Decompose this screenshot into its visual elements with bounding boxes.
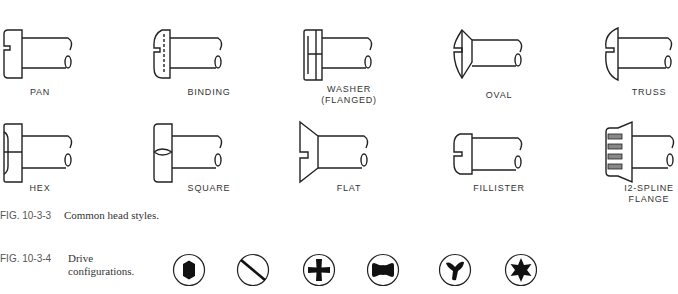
label-fillister: FILLISTER <box>439 183 559 194</box>
caption-drive-line1: Drive <box>68 252 134 265</box>
flat-head-screw <box>298 122 388 182</box>
slotted-drive-icon <box>236 253 270 287</box>
oval-head-screw <box>452 22 542 82</box>
figure-caption-text: Common head styles. <box>64 209 159 221</box>
truss-head-screw <box>604 22 678 82</box>
hex-socket-drive-icon <box>172 253 206 287</box>
12-spline-flange-head-screw <box>604 122 678 182</box>
label-washer-line2: (FLANGED) <box>289 95 409 106</box>
washer-flanged-head-screw <box>302 22 392 82</box>
pan-head-screw <box>2 22 92 82</box>
label-washer-line1: WASHER <box>289 84 409 95</box>
label-12-spline-line2: FLANGE <box>589 194 678 205</box>
caption-drive-line2: configurations. <box>68 265 134 278</box>
label-flat: FLAT <box>289 183 409 194</box>
label-hex: HEX <box>0 183 100 194</box>
tri-wing-drive-icon <box>438 253 472 287</box>
label-oval: OVAL <box>439 90 559 101</box>
figure-number: FIG. 10-3-3 <box>0 210 51 221</box>
label-binding: BINDING <box>149 87 269 98</box>
figure-caption-head-styles: FIG. 10-3-3 Common head styles. <box>0 209 159 221</box>
label-12-spline: I2-SPLINE FLANGE <box>589 183 678 205</box>
binding-head-screw <box>152 22 242 82</box>
phillips-drive-icon <box>302 253 336 287</box>
clutch-drive-icon <box>366 253 400 287</box>
label-truss: TRUSS <box>589 87 678 98</box>
fillister-head-screw <box>452 130 542 190</box>
figure-number-drive: FIG. 10-3-4 <box>0 253 51 264</box>
torx-drive-icon <box>504 253 538 287</box>
figure-caption-drive: Drive configurations. <box>68 252 134 278</box>
label-washer: WASHER (FLANGED) <box>289 84 409 106</box>
label-pan: PAN <box>0 87 100 98</box>
label-square: SQUARE <box>149 183 269 194</box>
label-12-spline-line1: I2-SPLINE <box>589 183 678 194</box>
square-head-screw <box>152 122 242 182</box>
hex-head-screw <box>2 122 92 182</box>
